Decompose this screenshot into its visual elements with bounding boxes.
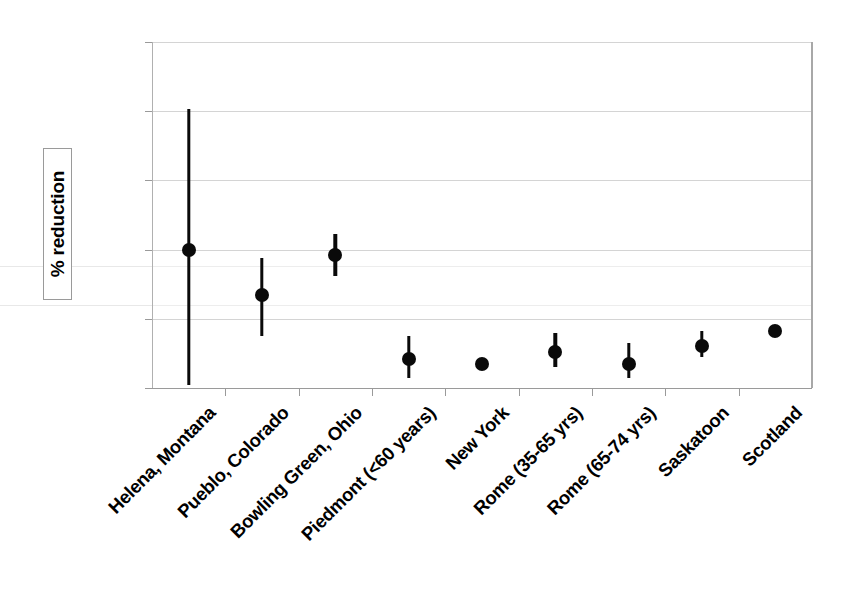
x-tick-mark — [665, 389, 666, 396]
data-point — [402, 352, 416, 366]
y-tick-mark — [145, 250, 152, 251]
plot-area — [152, 42, 812, 388]
data-point — [768, 324, 782, 338]
plot-right-border — [811, 42, 813, 388]
data-point — [182, 243, 196, 257]
x-tick-mark — [519, 389, 520, 396]
x-tick-mark — [592, 389, 593, 396]
x-tick-mark — [299, 389, 300, 396]
x-tick-mark — [372, 389, 373, 396]
grid-line — [152, 111, 812, 112]
x-axis-label: Rome (35-65 yrs) — [167, 402, 587, 607]
data-point — [695, 339, 709, 353]
x-axis-label: Piedmont (<60 years) — [124, 402, 440, 607]
data-point — [328, 248, 342, 262]
y-tick-mark — [145, 319, 152, 320]
x-axis-label: Scotland — [232, 402, 807, 607]
x-axis-line — [152, 388, 812, 389]
y-axis-title: % reduction — [47, 171, 69, 278]
y-tick-mark — [145, 180, 152, 181]
y-tick-mark — [145, 111, 152, 112]
grid-line — [152, 319, 812, 320]
x-tick-mark — [739, 389, 740, 396]
x-tick-mark — [225, 389, 226, 396]
grid-line — [152, 42, 812, 43]
error-bar-chart: 020406080100 % reduction Helena, Montana… — [0, 0, 844, 607]
scan-artifact-line — [0, 305, 152, 306]
scan-artifact-line — [0, 266, 152, 267]
data-point — [475, 357, 489, 371]
x-tick-mark — [445, 389, 446, 396]
y-axis-title-box: % reduction — [43, 148, 72, 300]
data-point — [548, 345, 562, 359]
data-point — [255, 288, 269, 302]
data-point — [622, 357, 636, 371]
y-tick-mark — [145, 388, 152, 389]
y-axis-line — [152, 42, 153, 388]
grid-line — [152, 180, 812, 181]
y-tick-mark — [145, 42, 152, 43]
grid-line — [152, 250, 812, 251]
